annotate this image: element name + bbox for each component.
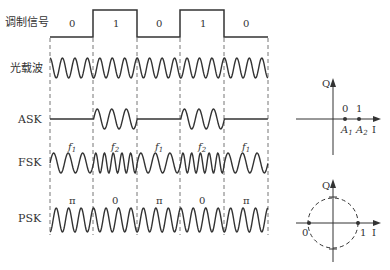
psk-wave	[50, 208, 268, 232]
svg-text:f1: f1	[154, 141, 163, 154]
svg-text:f2: f2	[110, 141, 120, 154]
point-0	[307, 221, 311, 225]
svg-text:1: 1	[356, 103, 362, 114]
point-a2	[357, 117, 361, 121]
svg-text:Q: Q	[322, 180, 330, 191]
q-axis-arrow-icon	[330, 179, 336, 188]
label-psk: PSK	[18, 212, 42, 225]
svg-text:f1: f1	[241, 141, 250, 154]
svg-text:0: 0	[156, 18, 162, 29]
q-axis-arrow-icon	[330, 78, 336, 87]
point-a1	[343, 117, 347, 121]
i-axis-arrow-icon	[373, 220, 381, 226]
ask-wave	[50, 109, 268, 129]
psk-phase-labels: π 0 π 0 π	[69, 195, 250, 206]
svg-text:0: 0	[342, 103, 348, 114]
svg-text:1: 1	[360, 227, 366, 238]
point-1	[356, 221, 360, 225]
ask-constellation: Q I 0 1 A1 A2	[296, 78, 381, 155]
svg-text:1: 1	[113, 18, 119, 29]
label-carrier: 光载波	[10, 61, 43, 75]
label-signal: 调制信号	[5, 16, 49, 29]
svg-text:f2: f2	[197, 141, 207, 154]
carrier-wave	[50, 58, 268, 78]
bit-labels: 0 1 0 1 0	[69, 18, 249, 29]
svg-text:I: I	[372, 227, 376, 238]
svg-text:0: 0	[69, 18, 75, 29]
fsk-frequency-labels: f1 f2 f1 f2 f1	[67, 141, 250, 154]
svg-text:0: 0	[302, 227, 308, 238]
psk-constellation: Q I 0 1	[296, 179, 381, 262]
svg-text:0: 0	[199, 195, 205, 206]
svg-text:f1: f1	[67, 141, 76, 154]
svg-text:1: 1	[200, 18, 206, 29]
label-ask: ASK	[17, 113, 42, 126]
svg-text:0: 0	[243, 18, 249, 29]
modulation-diagram: 调制信号 光载波 ASK FSK PSK 0 1 0 1 0 f1 f2 f1 …	[0, 0, 390, 270]
svg-text:I: I	[372, 124, 376, 135]
svg-text:π: π	[156, 195, 163, 206]
svg-text:π: π	[243, 195, 250, 206]
svg-text:A2: A2	[355, 124, 368, 137]
fsk-wave	[50, 153, 268, 173]
svg-text:0: 0	[112, 195, 118, 206]
label-fsk: FSK	[18, 156, 42, 169]
svg-text:Q: Q	[322, 78, 330, 89]
svg-text:A1: A1	[340, 124, 353, 137]
svg-text:π: π	[69, 195, 76, 206]
i-axis-arrow-icon	[373, 116, 381, 122]
